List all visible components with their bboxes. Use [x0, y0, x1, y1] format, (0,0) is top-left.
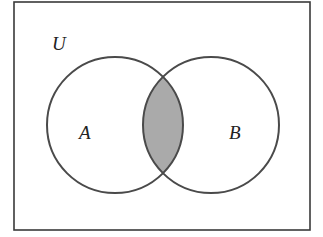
set-b-label: B	[229, 122, 241, 143]
universe-label: U	[52, 33, 67, 54]
set-a-label: A	[77, 122, 91, 143]
venn-diagram: U A B	[0, 0, 323, 237]
